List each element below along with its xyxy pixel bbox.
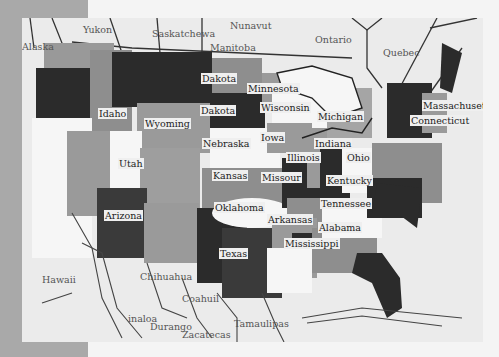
label-nunavut: Nunavut bbox=[230, 20, 272, 31]
label-coahuila: Coahuil bbox=[182, 293, 219, 304]
label-kentucky: Kentucky bbox=[326, 175, 373, 186]
label-quebec: Quebec bbox=[383, 47, 420, 58]
label-chihuahua: Chihuahua bbox=[140, 271, 192, 282]
label-minnesota: Minnesota bbox=[247, 83, 300, 94]
label-utah: Utah bbox=[118, 158, 144, 169]
label-manitoba: Manitoba bbox=[210, 42, 256, 53]
label-wisconsin: Wisconsin bbox=[260, 102, 311, 113]
label-iowa: Iowa bbox=[260, 132, 285, 143]
label-idaho: Idaho bbox=[98, 108, 127, 119]
label-arkansas: Arkansas bbox=[267, 214, 313, 225]
label-missouri: Missour bbox=[261, 172, 302, 183]
label-massachusetts: Massachusett bbox=[422, 100, 483, 111]
label-arizona: Arizona bbox=[104, 210, 143, 221]
label-texas: Texas bbox=[219, 248, 248, 259]
label-michigan: Michigan bbox=[317, 111, 364, 122]
label-saskatchewan: Saskatchewa bbox=[152, 28, 215, 39]
label-alaska: Alaska bbox=[22, 41, 54, 52]
label-nebraska: Nebraska bbox=[202, 138, 251, 149]
label-south-dakota: Dakota bbox=[200, 105, 236, 116]
label-illinois: Illinois bbox=[286, 152, 321, 163]
label-ohio: Ohio bbox=[346, 152, 371, 163]
label-alabama: Alabama bbox=[318, 222, 362, 233]
label-yukon: Yukon bbox=[83, 24, 112, 35]
gray-frame-left bbox=[0, 0, 22, 357]
label-ontario: Ontario bbox=[315, 34, 352, 45]
label-indiana: Indiana bbox=[314, 138, 352, 149]
label-tamaulipas: Tamaulipas bbox=[234, 318, 289, 329]
gray-frame-bottom bbox=[0, 342, 88, 357]
label-mississippi: Mississippi bbox=[284, 238, 340, 249]
label-hawaii: Hawaii bbox=[42, 274, 76, 285]
label-tennessee: Tennessee bbox=[320, 198, 372, 209]
label-north-dakota: Dakota bbox=[201, 73, 237, 84]
label-oklahoma: Oklahoma bbox=[214, 202, 265, 213]
map-painting: Alaska Yukon Saskatchewa Nunavut Manitob… bbox=[22, 18, 483, 342]
label-wyoming: Wyoming bbox=[144, 118, 191, 129]
label-kansas: Kansas bbox=[212, 170, 248, 181]
label-zacatecas: Zacatecas bbox=[182, 329, 231, 340]
label-connecticut: Connecticut bbox=[410, 115, 470, 126]
map-shapes bbox=[22, 18, 483, 342]
